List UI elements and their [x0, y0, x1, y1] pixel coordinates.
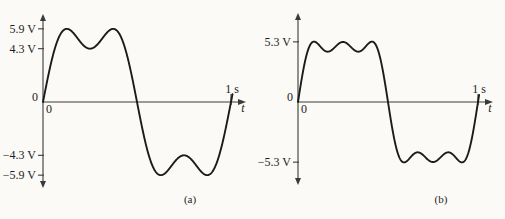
y-origin-label: 0 [32, 90, 38, 104]
time-axis-label: t [241, 101, 245, 115]
panel-caption: (b) [435, 193, 448, 206]
harmonic-waveform-figure: 5.9 V4.3 V−4.3 V−5.9 V1 s00t(a)5.3 V−5.3… [0, 0, 505, 219]
y-tick-label: −4.3 V [3, 148, 37, 162]
y-tick-label: −5.9 V [3, 168, 37, 182]
time-axis-label: t [488, 101, 492, 115]
waveform-panel-a: 5.9 V4.3 V−4.3 V−5.9 V1 s00t(a) [3, 14, 246, 206]
y-tick-label: 4.3 V [10, 42, 37, 56]
y-tick-label: −5.3 V [258, 155, 292, 169]
panel-caption: (a) [184, 193, 197, 206]
x-origin-label: 0 [46, 102, 52, 116]
y-axis-down-arrow-icon [295, 178, 301, 185]
x-origin-label: 0 [301, 102, 307, 116]
waveform-chart-canvas: 5.9 V4.3 V−4.3 V−5.9 V1 s00t(a)5.3 V−5.3… [0, 0, 505, 219]
y-tick-label: 5.9 V [10, 22, 37, 36]
x-tick-label: 1 s [472, 82, 486, 96]
y-axis-up-arrow-icon [40, 14, 46, 21]
waveform-panel-b: 5.3 V−5.3 V1 s00t(b) [258, 13, 493, 206]
y-tick-label: 5.3 V [265, 35, 292, 49]
y-axis-down-arrow-icon [40, 181, 46, 188]
y-origin-label: 0 [287, 90, 293, 104]
y-axis-up-arrow-icon [295, 13, 301, 20]
